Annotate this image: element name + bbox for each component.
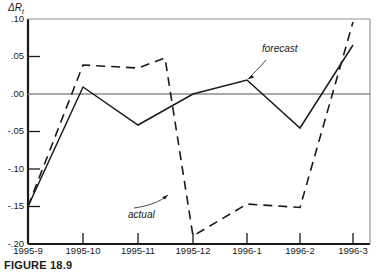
actual-leader-arrow <box>134 195 168 208</box>
x-tick-label-6: 1996-3 <box>327 246 377 256</box>
y-tick-label-5: -.15 <box>0 201 24 211</box>
plot-canvas <box>0 0 377 275</box>
y-tick-label-4: -.10 <box>0 164 24 174</box>
axis-frame <box>28 19 370 244</box>
x-tick-label-1: 1995-10 <box>57 246 109 256</box>
annotation-actual: actual <box>128 209 155 220</box>
x-tick-marks <box>83 233 353 244</box>
series-actual-line <box>28 22 353 236</box>
series-forecast-line <box>28 45 353 207</box>
x-tick-label-2: 1995-11 <box>112 246 164 256</box>
x-tick-label-4: 1996-1 <box>221 246 273 256</box>
x-tick-label-0: 1995-9 <box>2 246 54 256</box>
y-tick-label-1: .05 <box>0 51 24 61</box>
forecast-leader-arrow <box>248 60 266 79</box>
annotation-forecast: forecast <box>262 43 298 54</box>
y-tick-label-0: .10 <box>0 14 24 24</box>
figure-18-9: ΔRt <box>0 0 377 275</box>
x-tick-label-3: 1995-12 <box>167 246 219 256</box>
x-tick-label-5: 1996-2 <box>274 246 326 256</box>
y-tick-label-2: .00 <box>0 89 24 99</box>
figure-caption: FIGURE 18.9 <box>4 259 72 271</box>
y-tick-label-3: -.05 <box>0 126 24 136</box>
